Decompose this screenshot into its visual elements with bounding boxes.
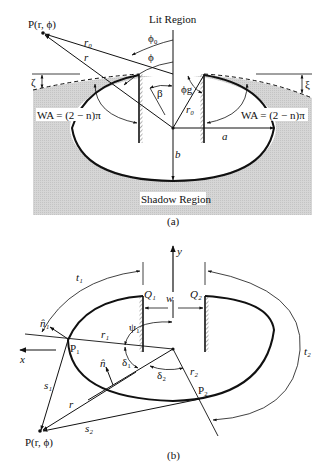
y-label: y bbox=[176, 245, 182, 257]
xi-label: ξ bbox=[305, 78, 310, 91]
part-b: y x w Q₁ Q₂ t₁ t₂ n̂₁ n̂ P₁ P₂ r₁ r₂ ψ₁ … bbox=[19, 245, 311, 462]
point-p-label-a: P(r, ϕ) bbox=[28, 18, 56, 31]
delta2-label: δ₂ bbox=[157, 369, 166, 381]
r0-top-label: r₀ bbox=[84, 36, 92, 48]
delta1-label: δ₁ bbox=[122, 356, 131, 368]
q1-label: Q₁ bbox=[144, 288, 156, 300]
zeta-label: ζ bbox=[31, 76, 36, 89]
n1-label: n̂₁ bbox=[40, 317, 50, 329]
ray-r1 bbox=[25, 334, 173, 349]
point-p-label-b: P(r, ϕ) bbox=[25, 436, 53, 449]
point-p-b bbox=[38, 429, 42, 433]
x-label: x bbox=[19, 353, 25, 365]
r1-label: r₁ bbox=[101, 328, 109, 340]
t1-arc bbox=[42, 271, 140, 332]
phi0-label: ϕ₀ bbox=[148, 32, 158, 44]
t2-arc bbox=[208, 271, 300, 420]
ray-r2 bbox=[173, 349, 218, 436]
shadow-region-label: Shadow Region bbox=[141, 193, 211, 205]
b-label: b bbox=[175, 148, 181, 160]
s1-label: s₁ bbox=[44, 379, 52, 391]
t1-label: t₁ bbox=[76, 271, 83, 283]
lit-region-label: Lit Region bbox=[149, 13, 197, 25]
diagram-figure: Lit Region P(r, ϕ) r₀ r ϕ₀ ϕ β ϕg r₀ ζ ξ… bbox=[0, 0, 323, 473]
s2-label: s₂ bbox=[85, 422, 93, 434]
p1-label: P₁ bbox=[70, 342, 80, 354]
n-normal bbox=[106, 367, 113, 385]
a-label: a bbox=[222, 130, 228, 142]
delta2-arc bbox=[150, 366, 183, 370]
q2-label: Q₂ bbox=[190, 288, 202, 300]
r0-inner-label: r₀ bbox=[186, 103, 194, 115]
r-label-a: r bbox=[84, 51, 89, 63]
caption-b: (b) bbox=[167, 449, 180, 462]
phi-label: ϕ bbox=[148, 51, 154, 63]
wa-right-label: WA = (2 − n)π bbox=[241, 109, 305, 122]
p2-label: P₂ bbox=[198, 384, 208, 396]
psi1-label: ψ₁ bbox=[129, 321, 140, 333]
point-p-a bbox=[41, 31, 45, 35]
caption-a: (a) bbox=[167, 215, 180, 228]
r-label-b: r bbox=[69, 398, 74, 410]
r2-label: r₂ bbox=[190, 365, 198, 377]
n-label: n̂ bbox=[100, 357, 106, 369]
w-label: w bbox=[166, 292, 174, 304]
wa-left-label: WA = (2 − n)π bbox=[37, 109, 101, 122]
phig-label: ϕg bbox=[181, 83, 193, 95]
part-a: Lit Region P(r, ϕ) r₀ r ϕ₀ ϕ β ϕg r₀ ζ ξ… bbox=[28, 13, 312, 228]
t2-label: t₂ bbox=[304, 345, 311, 357]
beta-label: β bbox=[157, 87, 163, 99]
